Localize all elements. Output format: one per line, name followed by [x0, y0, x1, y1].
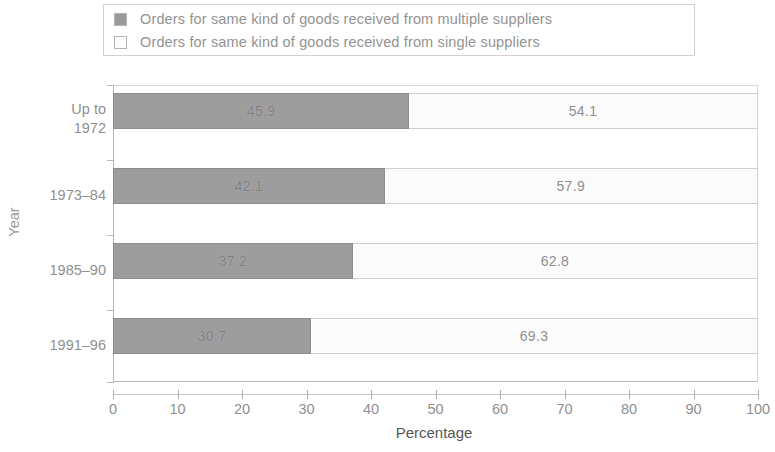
bar-value-label: 45.9 — [247, 103, 275, 119]
legend-swatch-multiple-suppliers — [114, 13, 127, 26]
bar-row: 45.9 54.1 — [113, 93, 758, 129]
legend-entry-single-suppliers: Orders for same kind of goods received f… — [114, 30, 540, 54]
legend-label-single-suppliers: Orders for same kind of goods received f… — [140, 34, 540, 50]
bar-value-label: 42.1 — [235, 178, 263, 194]
bar-segment-single: 69.3 — [311, 318, 758, 354]
bar-segment-single: 57.9 — [385, 168, 758, 204]
x-axis-title: Percentage — [0, 424, 775, 441]
x-tick-mark — [371, 390, 372, 399]
x-tick-mark — [694, 390, 695, 399]
bar-segment-multiple: 37.2 — [113, 243, 353, 279]
y-tick-label-1973-84: 1973–84 — [10, 186, 106, 205]
x-tick-label: 0 — [91, 401, 135, 417]
x-tick-mark — [758, 390, 759, 399]
bar-value-label: 69.3 — [520, 328, 548, 344]
y-tick-label-line: Up to — [10, 100, 106, 119]
x-tick-mark — [242, 390, 243, 399]
bar-segment-multiple: 45.9 — [113, 93, 409, 129]
bar-segment-multiple: 30.7 — [113, 318, 311, 354]
legend-swatch-single-suppliers — [114, 36, 127, 49]
legend-entry-multiple-suppliers: Orders for same kind of goods received f… — [114, 7, 552, 31]
y-tick-label-1985-90: 1985–90 — [10, 261, 106, 280]
x-tick-label: 70 — [543, 401, 587, 417]
y-tick-mark — [107, 382, 114, 383]
y-tick-mark — [107, 85, 114, 86]
x-tick-label: 20 — [220, 401, 264, 417]
x-tick-label: 50 — [414, 401, 458, 417]
bar-segment-single: 54.1 — [409, 93, 758, 129]
bar-row: 37.2 62.8 — [113, 243, 758, 279]
x-axis-title-text: Percentage — [303, 424, 473, 441]
bar-segment-single: 62.8 — [353, 243, 758, 279]
y-axis: Up to 1972 1973–84 1985–90 1991–96 Year — [0, 0, 106, 452]
x-tick-mark — [436, 390, 437, 399]
x-tick-label: 100 — [736, 401, 775, 417]
x-tick-label: 80 — [607, 401, 651, 417]
bar-segment-multiple: 42.1 — [113, 168, 385, 204]
bar-value-label: 37.2 — [219, 253, 247, 269]
y-tick-label-1991-96: 1991–96 — [10, 336, 106, 355]
legend-label-multiple-suppliers: Orders for same kind of goods received f… — [140, 11, 552, 27]
stacked-bar-chart: Orders for same kind of goods received f… — [0, 0, 775, 452]
y-tick-label-line: 1972 — [10, 119, 106, 138]
chart-legend: Orders for same kind of goods received f… — [103, 4, 695, 56]
x-tick-label: 40 — [349, 401, 393, 417]
x-tick-mark — [307, 390, 308, 399]
y-tick-label-up-to-1972: Up to 1972 — [10, 100, 106, 138]
x-tick-label: 30 — [285, 401, 329, 417]
x-tick-label: 90 — [672, 401, 716, 417]
bar-value-label: 30.7 — [198, 328, 226, 344]
bar-value-label: 62.8 — [541, 253, 569, 269]
x-tick-label: 60 — [478, 401, 522, 417]
x-tick-mark — [178, 390, 179, 399]
bar-value-label: 57.9 — [557, 178, 585, 194]
bars-layer: 45.9 54.1 42.1 57.9 37.2 62.8 30.7 — [113, 85, 758, 382]
y-tick-mark — [107, 160, 114, 161]
x-tick-mark — [629, 390, 630, 399]
x-tick-label: 10 — [156, 401, 200, 417]
x-tick-mark — [113, 390, 114, 399]
y-tick-mark — [107, 310, 114, 311]
bar-row: 42.1 57.9 — [113, 168, 758, 204]
bar-value-label: 54.1 — [569, 103, 597, 119]
x-tick-mark — [565, 390, 566, 399]
y-axis-title: Year — [6, 192, 22, 252]
bar-row: 30.7 69.3 — [113, 318, 758, 354]
x-tick-mark — [500, 390, 501, 399]
y-tick-mark — [107, 235, 114, 236]
